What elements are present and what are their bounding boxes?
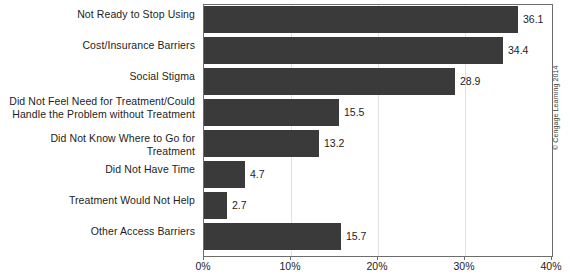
- bar: [204, 6, 518, 33]
- x-axis: 0% 10% 20% 30% 40%: [203, 256, 552, 276]
- category-label: Other Access Barriers: [91, 225, 195, 238]
- bar: [204, 223, 341, 250]
- bar-value-label: 15.5: [339, 99, 364, 126]
- bar-row: 28.9: [204, 68, 552, 95]
- bar-value-label: 15.7: [341, 223, 366, 250]
- bar-value-label: 28.9: [455, 68, 480, 95]
- bar-row: 34.4: [204, 37, 552, 64]
- bar: [204, 130, 319, 157]
- category-label-column: Not Ready to Stop Using Cost/Insurance B…: [0, 4, 199, 255]
- category-label: Treatment Would Not Help: [69, 194, 195, 207]
- bar: [204, 99, 339, 126]
- bar-chart-figure: Not Ready to Stop Using Cost/Insurance B…: [0, 0, 570, 279]
- bar-row: 2.7: [204, 192, 552, 219]
- category-label: Did Not Have Time: [105, 163, 195, 176]
- copyright-credit: © Cengage Learning 2014: [552, 65, 559, 150]
- x-tick-label: 40%: [540, 260, 561, 272]
- x-tick-label: 10%: [279, 260, 300, 272]
- x-tick-label: 0%: [195, 260, 210, 272]
- bar-row: 13.2: [204, 130, 552, 157]
- category-label: Cost/Insurance Barriers: [82, 39, 195, 52]
- bar-row: 4.7: [204, 161, 552, 188]
- bar-value-label: 2.7: [227, 192, 247, 219]
- bar: [204, 37, 503, 64]
- bar: [204, 68, 455, 95]
- category-label: Social Stigma: [130, 70, 196, 83]
- bar: [204, 161, 245, 188]
- category-label: Did Not Feel Need for Treatment/Could Ha…: [9, 95, 195, 120]
- bar-row: 36.1: [204, 6, 552, 33]
- bar-value-label: 36.1: [518, 6, 543, 33]
- x-tick-label: 30%: [453, 260, 474, 272]
- bar-row: 15.5: [204, 99, 552, 126]
- bar-value-label: 4.7: [245, 161, 265, 188]
- bar-value-label: 13.2: [319, 130, 344, 157]
- category-label: Not Ready to Stop Using: [77, 8, 195, 21]
- bar: [204, 192, 227, 219]
- plot-area: 36.1 34.4 28.9 15.5 13.2 4.7 2.7 15.7: [203, 4, 553, 257]
- bar-row: 15.7: [204, 223, 552, 250]
- bar-value-label: 34.4: [503, 37, 528, 64]
- category-label: Did Not Know Where to Go for Treatment: [0, 132, 195, 157]
- x-tick-label: 20%: [366, 260, 387, 272]
